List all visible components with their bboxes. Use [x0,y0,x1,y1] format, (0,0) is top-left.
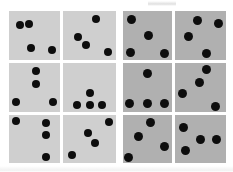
dot-marker [68,151,76,159]
dot-marker [32,67,40,75]
dot-marker [12,98,20,106]
dot-marker [42,131,50,139]
dot-marker [92,15,100,23]
dot-marker [42,153,50,161]
dot-marker [184,32,193,41]
dot-panel-r2c4[interactable] [175,63,226,112]
dot-marker [146,118,155,127]
dot-marker [25,20,33,28]
dot-marker [42,119,50,127]
dot-panel-r1c4[interactable] [175,11,226,60]
dot-marker [84,129,92,137]
dot-marker [12,117,20,125]
dot-marker [143,99,152,108]
dot-panel-r1c2[interactable] [63,11,116,60]
dot-marker [193,16,202,25]
scan-artifact-top [148,1,176,6]
dot-marker [178,89,187,98]
dot-marker [86,89,94,97]
dot-marker [144,31,153,40]
dot-marker [202,49,211,58]
dot-marker [160,142,169,151]
dot-panel-r3c3[interactable] [123,115,172,163]
dot-marker [82,41,90,49]
dot-marker [211,102,220,111]
dot-marker [27,44,35,52]
dot-marker [124,153,133,162]
dot-marker [105,118,113,126]
dot-panel-r2c2[interactable] [63,63,116,112]
dot-marker [48,46,56,54]
dot-panel-r3c2[interactable] [63,115,116,163]
dot-panel-r1c1[interactable] [9,11,60,60]
dot-marker [134,132,143,141]
dot-marker [49,98,57,106]
dot-marker [104,48,112,56]
dot-marker [86,101,94,109]
dot-marker [98,101,106,109]
dot-marker [196,135,205,144]
dot-panel-r1c3[interactable] [123,11,172,60]
dot-marker [195,78,204,87]
scan-artifact-bottom [0,166,233,172]
dot-marker [202,65,211,74]
dot-marker [16,21,24,29]
dot-marker [212,135,221,144]
dot-panel-r3c4[interactable] [175,115,226,163]
dot-marker [32,80,40,88]
dot-pattern-board [0,0,233,172]
dot-marker [73,101,81,109]
dot-marker [91,139,99,147]
dot-marker [214,19,223,28]
dot-panel-r3c1[interactable] [9,115,60,163]
dot-panel-r2c3[interactable] [123,63,172,112]
dot-marker [160,49,169,58]
dot-marker [181,146,190,155]
dot-marker [74,33,82,41]
dot-marker [127,15,136,24]
dot-marker [125,99,134,108]
dot-marker [126,48,135,57]
dot-panel-r2c1[interactable] [9,63,60,112]
dot-marker [179,123,188,132]
dot-marker [160,99,169,108]
dot-marker [143,69,152,78]
